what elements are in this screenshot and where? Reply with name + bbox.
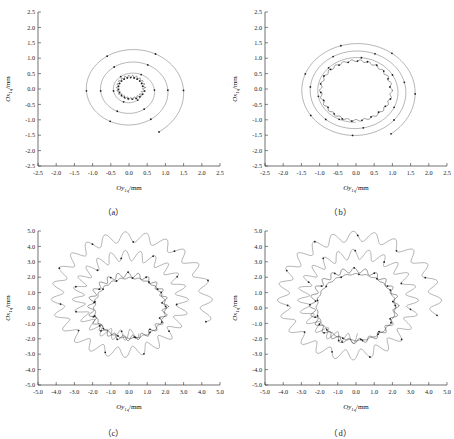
data-point-marker [106,55,108,57]
data-point-marker [161,321,163,323]
data-point-marker [136,78,138,80]
data-point-marker [330,69,332,71]
data-point-marker [121,94,123,96]
x-tick-label: -2.5 [33,169,43,176]
x-tick-label: -5.0 [33,388,43,395]
data-point-marker [340,45,342,47]
y-tick-label: 3.0 [27,258,35,265]
data-point-marker [315,300,317,302]
data-point-marker [205,321,207,323]
data-point-marker [109,120,111,122]
y-tick-label: 0.0 [254,304,262,311]
x-tick-label: -3.0 [297,388,307,395]
data-point-marker [314,316,316,318]
x-tick-label: 3.0 [407,388,415,395]
y-tick-label: -4.0 [25,366,35,373]
axis-lines [265,12,447,166]
data-point-marker [145,276,147,278]
data-point-marker [97,269,99,271]
y-tick-label: -0.5 [25,101,35,108]
x-axis-title: Oy1q/mm [116,184,142,193]
x-tick-label: -1.0 [333,388,343,395]
data-point-marker [154,89,156,91]
y-tick-label: 0.5 [27,70,35,77]
x-tick-label: 1.0 [389,169,397,176]
data-point-marker [176,304,178,306]
chart-svg-a: -2.5-2.0-1.5-1.0-0.50.00.51.01.52.02.52.… [0,0,227,200]
data-point-marker [354,250,356,252]
data-point-marker [286,270,288,272]
orbit-curve [88,272,169,340]
x-tick-label: -1.5 [70,169,80,176]
data-point-marker [142,85,144,87]
data-point-marker [361,119,363,121]
y-tick-label: 2.5 [254,8,262,15]
y-axis-title: Ox1q/mm [231,76,240,102]
data-point-marker [326,329,328,331]
data-point-marker [149,331,151,333]
y-axis-title-unit: /mm [231,295,239,308]
data-point-marker [142,93,144,95]
data-point-marker [331,351,333,353]
data-point-marker [116,110,118,112]
x-tick-label: 2.5 [216,169,224,176]
y-tick-label: -1.5 [252,131,262,138]
data-point-marker [137,99,139,101]
data-point-marker [116,280,118,282]
data-point-marker [317,299,319,301]
x-tick-label: 1.0 [143,388,151,395]
y-tick-label: -2.0 [252,335,262,342]
data-point-marker [131,98,133,100]
data-point-marker [403,81,405,83]
x-axis-title: Oy1q/mm [116,403,142,412]
data-point-marker [92,243,94,245]
y-tick-label: -2.5 [252,162,262,169]
data-point-marker [394,305,396,307]
x-tick-label: 1.0 [162,169,170,176]
data-point-marker [135,98,137,100]
chart-svg-c: -5.0-4.0-3.0-2.0-1.00.01.02.03.04.05.05.… [0,219,227,419]
y-axis-title-unit: /mm [231,76,239,89]
x-axis-title-unit: /mm [129,184,142,192]
x-tick-label: 4.0 [198,388,206,395]
y-tick-label: 2.0 [27,24,35,31]
data-point-marker [384,105,386,107]
data-point-marker [86,90,88,92]
data-point-marker [133,77,135,79]
y-tick-label: 3.0 [254,258,262,265]
data-point-marker [159,317,161,319]
data-point-marker [149,328,151,330]
data-point-marker [127,271,129,273]
y-tick-label: -2.0 [25,147,35,154]
x-tick-label: -2.0 [51,169,61,176]
data-point-marker [102,288,104,290]
chart-svg-b: -2.5-2.0-1.5-1.0-0.50.00.51.01.52.02.52.… [227,0,454,200]
data-point-marker [126,77,128,79]
data-point-marker [94,301,96,303]
y-tick-label: 5.0 [254,227,262,234]
data-point-marker [119,92,121,94]
data-point-marker [165,306,167,308]
x-tick-label: 0.5 [143,169,151,176]
data-point-marker [75,286,77,288]
data-point-marker [389,86,391,88]
chart-svg-d: -5.0-4.0-3.0-2.0-1.00.01.02.03.04.05.05.… [227,219,454,419]
data-point-marker [143,108,145,110]
data-point-marker [360,339,362,341]
data-point-marker [314,241,316,243]
x-tick-label: 0.0 [352,388,360,395]
y-tick-label: -2.0 [25,335,35,342]
data-point-marker [383,70,385,72]
data-point-marker [121,80,123,82]
data-point-marker [387,285,389,287]
data-point-marker [120,76,122,78]
x-tick-label: -4.0 [278,388,288,395]
y-tick-label: 1.0 [254,289,262,296]
data-point-marker [320,92,322,94]
data-point-marker [318,323,320,325]
data-point-marker [321,285,323,287]
data-point-marker [113,66,115,68]
data-point-marker [353,267,355,269]
data-point-marker [318,95,320,97]
y-tick-label: 2.5 [27,8,35,15]
